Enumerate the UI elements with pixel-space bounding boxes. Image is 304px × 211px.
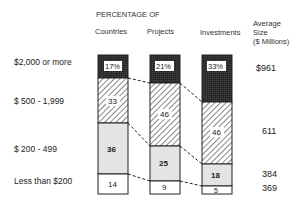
bar-projects bbox=[150, 55, 180, 194]
value-projects-less-200: 9 bbox=[162, 183, 166, 192]
bar-countries bbox=[98, 55, 128, 194]
value-countries-500-1999: 33 bbox=[108, 97, 117, 106]
value-investments-less-200: 5 bbox=[214, 186, 218, 195]
value-investments-500-1999: 46 bbox=[212, 128, 221, 137]
stacked-bar-chart bbox=[0, 0, 304, 211]
value-projects-200-499: 25 bbox=[159, 159, 168, 168]
value-investments-200-499: 18 bbox=[211, 171, 220, 180]
value-countries-200-499: 36 bbox=[107, 145, 116, 154]
value-countries-2000-plus: 17% bbox=[105, 62, 120, 71]
value-investments-2000-plus: 33% bbox=[208, 62, 223, 71]
value-countries-less-200: 14 bbox=[108, 180, 117, 189]
value-projects-500-1999: 46 bbox=[160, 110, 169, 119]
value-projects-2000-plus: 21% bbox=[156, 62, 171, 71]
